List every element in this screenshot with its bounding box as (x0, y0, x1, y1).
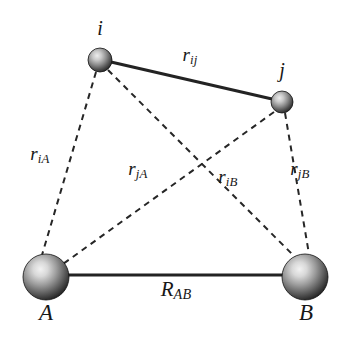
edge-line-iA (42, 72, 96, 255)
node-sphere-B[interactable] (282, 254, 328, 300)
edge-label-rij: rij (183, 45, 198, 67)
edge-label-rij-sub: ij (190, 52, 198, 67)
edge-label-RAB-sub: AB (174, 286, 192, 302)
edge-label-riB: riB (218, 167, 237, 189)
node-sphere-A[interactable] (23, 254, 69, 300)
edge-label-rjB-sub: jB (298, 166, 310, 181)
node-label-j: j (279, 60, 285, 80)
node-sphere-i[interactable] (88, 48, 112, 72)
edge-label-RAB-base: R (161, 277, 174, 301)
node-label-i: i (97, 18, 103, 38)
edge-label-rjA-sub: jA (136, 166, 148, 181)
edge-label-rjA: rjA (128, 159, 147, 181)
edge-label-rjB: rjB (290, 159, 309, 181)
node-label-B: B (299, 301, 313, 324)
node-sphere-j[interactable] (271, 91, 293, 113)
edge-label-RAB: RAB (161, 279, 192, 301)
distance-diagram-figure: i j A B rij RAB riA rjA riB rjB (0, 0, 344, 346)
edge-label-riA-sub: iA (38, 151, 50, 166)
edge-label-riA: riA (30, 144, 49, 166)
node-label-A: A (39, 301, 53, 324)
edge-line-ij (111, 62, 272, 99)
edge-label-riB-sub: iB (226, 174, 238, 189)
edge-line-jA (63, 112, 274, 264)
edge-line-jB (285, 113, 309, 254)
